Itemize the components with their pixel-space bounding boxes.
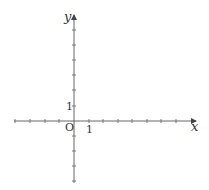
origin-label: O [65, 121, 74, 134]
y-axis-label: y [63, 9, 72, 24]
y-unit-label: 1 [66, 100, 73, 113]
x-axis-label: x [191, 119, 199, 134]
x-unit-label: 1 [86, 123, 93, 136]
coordinate-plane: y x O 1 1 [0, 0, 209, 190]
